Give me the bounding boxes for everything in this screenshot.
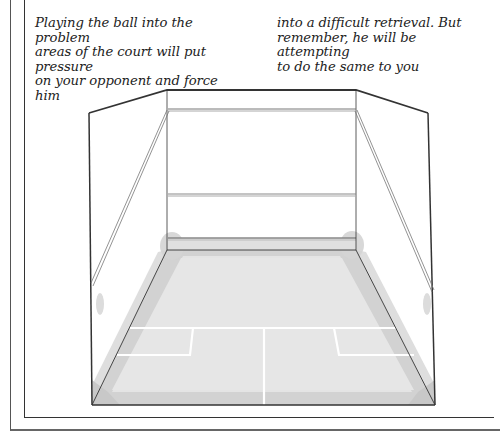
left-wall-nick-shading xyxy=(96,293,104,315)
right-wall-nick-shading xyxy=(423,293,431,315)
front-wall-lines xyxy=(168,109,356,196)
